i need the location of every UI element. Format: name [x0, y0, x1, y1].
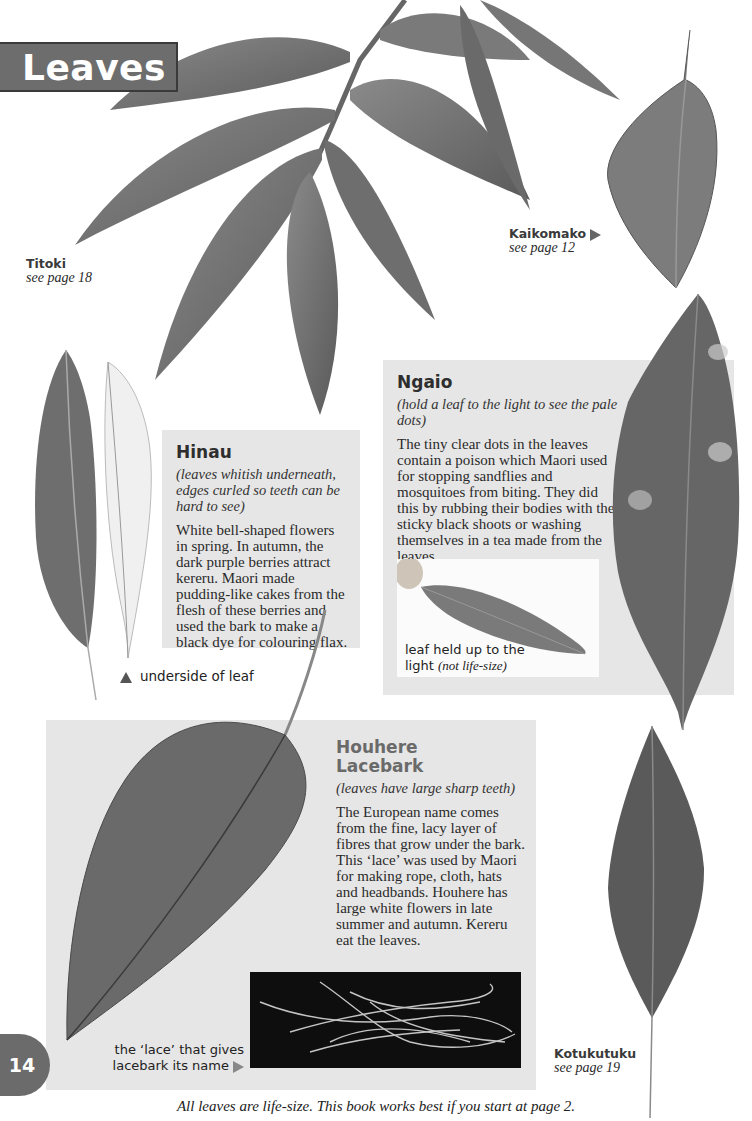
kotukutuku-label: Kotukutuku see page 19 [554, 1046, 636, 1075]
kaikomako-label: Kaikomako see page 12 [509, 226, 601, 255]
page-title: Leaves [22, 47, 166, 88]
ngaio-photo-caption-line1: leaf held up to the [405, 642, 525, 658]
page-number: 14 [9, 1054, 35, 1076]
page-title-banner: Leaves [0, 42, 178, 92]
houhere-heading-line1: Houhere [336, 738, 526, 757]
titoki-page-ref: see page 18 [26, 271, 92, 285]
houhere-leaf-image [55, 610, 345, 1050]
ngaio-subtitle: (hold a leaf to the light to see the pal… [397, 396, 623, 428]
houhere-body: The European name comes from the fine, l… [336, 804, 526, 948]
ngaio-heading: Ngaio [397, 372, 623, 392]
titoki-label: Titoki see page 18 [26, 256, 92, 285]
ngaio-body: The tiny clear dots in the leaves contai… [397, 436, 623, 564]
triangle-right-icon [590, 229, 601, 241]
ngaio-photo-caption-note: (not life-size) [438, 658, 507, 673]
houhere-heading-line2: Lacebark [336, 757, 526, 776]
kaikomako-leaf-image [598, 30, 728, 290]
page-footer: All leaves are life-size. This book work… [0, 1098, 752, 1115]
hinau-heading: Hinau [176, 442, 360, 462]
page-number-badge: 14 [0, 1034, 50, 1096]
kaikomako-page-ref: see page 12 [509, 241, 601, 255]
titoki-name: Titoki [26, 256, 92, 271]
hinau-subtitle: (leaves whitish underneath, edges curled… [176, 466, 360, 514]
kotukutuku-page-ref: see page 19 [554, 1061, 636, 1075]
ngaio-photo-caption-line2: light [405, 658, 434, 673]
kotukutuku-name: Kotukutuku [554, 1046, 636, 1061]
triangle-right-icon [233, 1061, 244, 1073]
ngaio-leaf-image [608, 292, 748, 732]
kaikomako-name: Kaikomako [509, 226, 586, 241]
houhere-subtitle: (leaves have large sharp teeth) [336, 780, 526, 796]
ngaio-leaf-photo: leaf held up to the light (not life-size… [397, 559, 599, 677]
